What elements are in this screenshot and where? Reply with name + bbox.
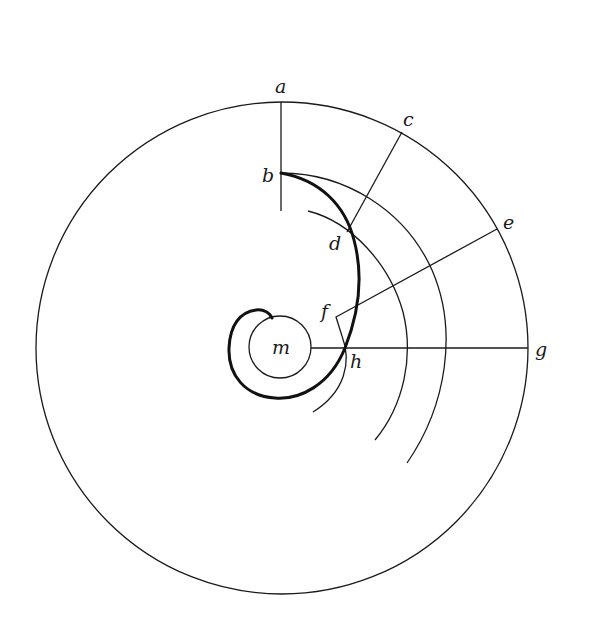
arc-from-b xyxy=(281,173,446,463)
label-b: b xyxy=(262,164,274,186)
label-f: f xyxy=(319,300,331,322)
label-d: d xyxy=(329,232,341,254)
spiral-curve xyxy=(229,173,359,398)
spiral-geometry-diagram: a b c d e f g h m xyxy=(0,0,593,644)
label-c: c xyxy=(403,108,414,130)
label-a: a xyxy=(275,75,286,97)
label-m: m xyxy=(272,336,290,358)
label-h: h xyxy=(350,350,362,372)
label-e: e xyxy=(503,211,514,233)
label-g: g xyxy=(535,338,547,360)
